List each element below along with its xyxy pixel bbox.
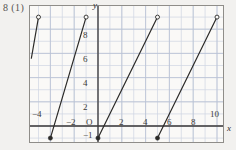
x-tick-minus-4: −4 xyxy=(32,110,42,119)
y-axis-name: y xyxy=(93,1,97,10)
x-tick-4: 4 xyxy=(143,118,148,127)
open-endpoint xyxy=(156,15,160,19)
x-tick-10: 10 xyxy=(210,110,219,119)
problem-label: 8 (1) xyxy=(3,2,24,13)
open-endpoint xyxy=(37,15,41,19)
y-tick-2: 2 xyxy=(83,103,88,112)
x-tick-2: 2 xyxy=(119,118,124,127)
closed-endpoint xyxy=(48,136,52,140)
y-tick-4: 4 xyxy=(83,79,88,88)
x-tick-6: 6 xyxy=(167,118,172,127)
open-endpoint xyxy=(84,15,88,19)
y-tick-minus-1: −1 xyxy=(83,131,93,140)
x-tick-8: 8 xyxy=(191,118,196,127)
open-endpoint xyxy=(215,15,219,19)
y-tick-8: 8 xyxy=(83,31,88,40)
closed-endpoint xyxy=(96,136,100,140)
closed-endpoint xyxy=(155,136,159,140)
graph-segment-segment-0-partial xyxy=(31,17,38,58)
x-tick-minus-2: −2 xyxy=(66,118,76,127)
x-axis-name: x xyxy=(227,124,231,133)
screenshot-root: 8 (1) 8 6 4 2 −1 O −4 −2 2 4 6 8 10 y x xyxy=(0,0,236,150)
y-tick-6: 6 xyxy=(83,55,88,64)
origin-label: O xyxy=(86,118,93,127)
